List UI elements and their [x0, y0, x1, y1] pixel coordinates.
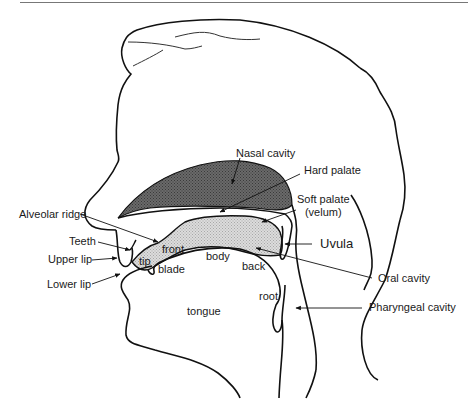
label-tongue-body: body: [206, 251, 230, 262]
label-tongue-tip: tip: [139, 256, 151, 267]
label-nasal-cavity: Nasal cavity: [236, 148, 295, 159]
diagram-drawing: [0, 0, 468, 411]
label-tongue-back: back: [242, 261, 265, 272]
label-pharyngeal-cavity: Pharyngeal cavity: [369, 302, 456, 313]
label-oral-cavity: Oral cavity: [378, 273, 430, 284]
label-tongue: tongue: [187, 306, 221, 317]
label-soft-palate-line1: Soft palate: [297, 193, 350, 205]
vocal-tract-diagram: Nasal cavity Hard palate Soft palate (ve…: [0, 0, 468, 411]
nasal-cavity-region: [118, 161, 292, 218]
label-uvula: Uvula: [320, 237, 353, 250]
label-soft-palate-line2: (velum): [305, 206, 342, 218]
label-alveolar-ridge: Alveolar ridge: [19, 209, 86, 220]
label-upper-lip: Upper lip: [48, 254, 92, 265]
label-soft-palate: Soft palate (velum): [297, 193, 350, 219]
label-tongue-blade: blade: [158, 264, 185, 275]
label-hard-palate: Hard palate: [304, 165, 361, 176]
label-tongue-front: front: [162, 244, 184, 255]
label-lower-lip: Lower lip: [47, 279, 91, 290]
label-tongue-root: root: [259, 291, 278, 302]
label-teeth: Teeth: [69, 236, 96, 247]
